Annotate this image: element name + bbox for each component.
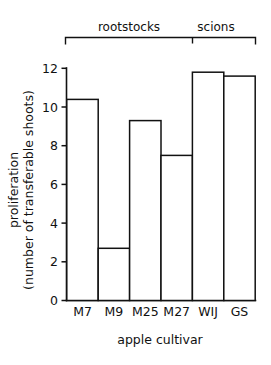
bar-M7 <box>67 99 98 300</box>
x-tick-label-M7: M7 <box>73 304 92 319</box>
x-tick-label-M9: M9 <box>105 304 124 319</box>
bar-GS <box>224 76 255 300</box>
y-tick-label-6: 6 <box>50 177 58 192</box>
x-axis-title: apple cultivar <box>117 332 203 347</box>
x-tick-label-GS: GS <box>231 304 249 319</box>
group-bracket <box>66 38 256 45</box>
x-tick-label-WIJ: WIJ <box>198 304 218 319</box>
y-tick-label-12: 12 <box>42 61 58 76</box>
y-axis-title-line1: proliferation <box>6 152 21 228</box>
y-tick-label-4: 4 <box>50 216 58 231</box>
bar-M9 <box>98 248 129 300</box>
group-label-rootstocks: rootstocks <box>98 20 160 34</box>
bars-group <box>67 72 255 300</box>
y-tick-label-8: 8 <box>50 138 58 153</box>
bar-M25 <box>130 121 161 301</box>
group-label-scions: scions <box>197 20 234 34</box>
bar-WIJ <box>192 72 223 300</box>
bracket-span-line <box>66 38 256 45</box>
chart-svg: rootstocks scions 0 2 4 6 8 10 12 <box>0 0 271 365</box>
y-tick-label-0: 0 <box>50 293 58 308</box>
x-tick-label-M27: M27 <box>163 304 190 319</box>
y-tick-label-10: 10 <box>42 100 58 115</box>
y-axis-title-line2: (number of transferable shoots) <box>21 90 36 290</box>
bar-M27 <box>161 155 192 300</box>
x-tick-label-M25: M25 <box>132 304 159 319</box>
bar-chart-figure: rootstocks scions 0 2 4 6 8 10 12 <box>0 0 271 365</box>
y-tick-label-2: 2 <box>50 254 58 269</box>
